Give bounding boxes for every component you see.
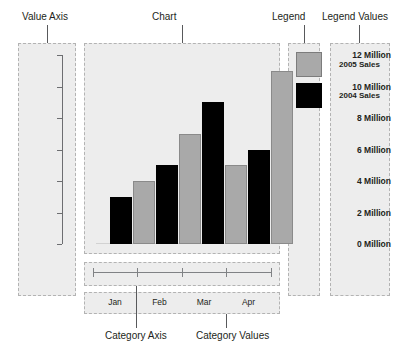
value-axis-tick-label: 6 Million — [357, 146, 391, 155]
category-label-jan: Jan — [95, 297, 135, 307]
callout-value-axis: Value Axis — [22, 11, 68, 23]
value-axis-tick — [57, 213, 62, 214]
value-axis-tick-label: 4 Million — [357, 177, 391, 186]
bar-feb-2004 — [156, 165, 178, 244]
legend-swatch-2004-sales — [296, 83, 322, 108]
category-label-mar: Mar — [184, 297, 224, 307]
leader-line-legend-values — [359, 25, 360, 43]
leader-line-category-axis — [136, 286, 137, 328]
leader-line-category-values — [226, 314, 227, 328]
legend-label-2004-sales: 2004 Sales — [339, 91, 380, 101]
value-axis-tick — [57, 150, 62, 151]
leader-line-value-axis — [47, 25, 48, 43]
category-axis-tick — [137, 268, 138, 277]
bar-mar-2004 — [202, 102, 224, 244]
value-axis-tick-label: 2 Million — [357, 209, 391, 218]
leader-line-chart — [182, 25, 183, 43]
category-axis-tick — [93, 268, 94, 277]
value-axis-tick — [57, 118, 62, 119]
bar-jan-2005 — [133, 181, 155, 244]
figure-canvas: 0 Million2 Million4 Million6 Million8 Mi… — [0, 0, 405, 353]
bar-feb-2005 — [179, 134, 201, 244]
legend-label-2005-sales: 2005 Sales — [339, 60, 380, 70]
value-axis-tick — [57, 244, 62, 245]
callout-category-values: Category Values — [196, 330, 269, 342]
bar-apr-2005 — [271, 71, 293, 244]
category-label-apr: Apr — [229, 297, 269, 307]
callout-chart: Chart — [152, 11, 176, 23]
value-axis-tick-label: 0 Million — [357, 240, 391, 249]
callout-legend: Legend — [272, 11, 305, 23]
category-axis-tick — [271, 268, 272, 277]
bar-mar-2005 — [225, 165, 247, 244]
value-axis-tick — [57, 181, 62, 182]
category-label-feb: Feb — [140, 297, 180, 307]
category-axis-tick — [182, 268, 183, 277]
callout-category-axis: Category Axis — [105, 330, 167, 342]
value-axis-tick — [57, 55, 62, 56]
bar-apr-2004 — [248, 150, 270, 245]
leader-line-legend — [304, 25, 305, 43]
category-axis-tick — [226, 268, 227, 277]
value-axis-tick — [57, 87, 62, 88]
plot-area — [84, 43, 280, 254]
value-axis-line — [62, 55, 63, 244]
bar-jan-2004 — [110, 197, 132, 244]
region-value-axis — [18, 43, 76, 296]
value-axis-tick-label: 12 Million — [352, 51, 391, 60]
legend-swatch-2005-sales — [296, 52, 322, 77]
region-legend-values — [330, 43, 390, 296]
callout-legend-values: Legend Values — [322, 11, 388, 23]
value-axis-tick-label: 8 Million — [357, 114, 391, 123]
